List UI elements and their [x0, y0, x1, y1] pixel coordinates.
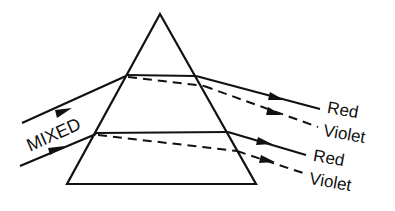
prism-diagram: MIXED Red Violet Red Violet	[0, 0, 395, 211]
prism-triangle	[67, 14, 256, 184]
